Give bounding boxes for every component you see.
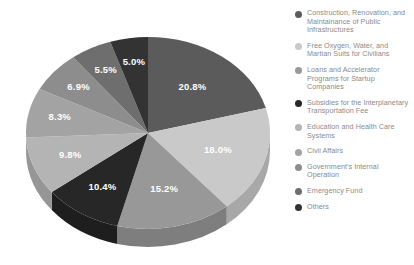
- pie-slice-value-label: 10.4%: [88, 181, 116, 192]
- legend-item[interactable]: Free Oxygen, Water, and Martian Suits fo…: [295, 42, 414, 59]
- legend: Construction, Renovation, and Maintainan…: [290, 0, 414, 218]
- legend-item-label: Civil Affairs: [307, 147, 343, 156]
- pie-slice-value-label: 8.3%: [49, 111, 72, 122]
- legend-swatch-icon: [295, 11, 302, 18]
- legend-item-label: Construction, Renovation, and Maintainan…: [307, 9, 411, 35]
- legend-swatch-icon: [295, 149, 302, 156]
- legend-item-label: Free Oxygen, Water, and Martian Suits fo…: [307, 42, 411, 59]
- pie-chart-svg: 20.8%18.0%15.2%10.4%9.8%8.3%6.9%5.5%5.0%: [0, 0, 290, 265]
- legend-item-label: Loans and Accelerator Programs for Start…: [307, 66, 411, 92]
- pie-slice-value-label: 5.0%: [123, 56, 146, 67]
- legend-item-label: Subsidies for the Interplanetary Transpo…: [307, 99, 411, 116]
- legend-item[interactable]: Civil Affairs: [295, 147, 414, 156]
- legend-item[interactable]: Subsidies for the Interplanetary Transpo…: [295, 99, 414, 116]
- pie-slice-value-label: 20.8%: [179, 81, 207, 92]
- legend-item[interactable]: Loans and Accelerator Programs for Start…: [295, 66, 414, 92]
- legend-swatch-icon: [295, 204, 302, 211]
- legend-item[interactable]: Emergency Fund: [295, 187, 414, 196]
- legend-swatch-icon: [295, 100, 302, 107]
- legend-swatch-icon: [295, 188, 302, 195]
- legend-item[interactable]: Education and Health Care Systems: [295, 123, 414, 140]
- pie-slice-value-label: 15.2%: [150, 183, 178, 194]
- pie-slice-value-label: 5.5%: [94, 64, 117, 75]
- pie-slice-value-label: 9.8%: [59, 149, 82, 160]
- legend-item-label: Others: [307, 203, 329, 212]
- legend-item-label: Government's Internal Operation: [307, 163, 411, 180]
- legend-swatch-icon: [295, 164, 302, 171]
- legend-item[interactable]: Government's Internal Operation: [295, 163, 414, 180]
- pie-slice-group: [26, 37, 270, 229]
- legend-swatch-icon: [295, 124, 302, 131]
- legend-item-label: Emergency Fund: [307, 187, 362, 196]
- legend-item-label: Education and Health Care Systems: [307, 123, 411, 140]
- legend-item[interactable]: Construction, Renovation, and Maintainan…: [295, 9, 414, 35]
- legend-swatch-icon: [295, 67, 302, 74]
- pie-slice-value-label: 6.9%: [67, 81, 90, 92]
- pie-slice-value-label: 18.0%: [204, 144, 232, 155]
- legend-item[interactable]: Others: [295, 203, 414, 212]
- legend-swatch-icon: [295, 43, 302, 50]
- pie-chart-figure: 20.8%18.0%15.2%10.4%9.8%8.3%6.9%5.5%5.0%…: [0, 0, 414, 265]
- pie-chart-plot-area: 20.8%18.0%15.2%10.4%9.8%8.3%6.9%5.5%5.0%: [0, 0, 290, 265]
